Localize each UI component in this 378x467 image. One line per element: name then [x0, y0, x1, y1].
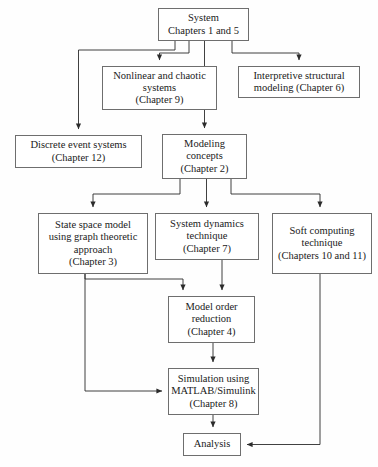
node-analysis[interactable]: Analysis: [183, 433, 241, 456]
edge-system-interpretive: [232, 41, 299, 60]
node-interpretive-label: Interpretive structural modeling (Chapte…: [239, 70, 359, 94]
edge-soft-analysis: [247, 274, 320, 445]
node-interpretive-structural-modeling[interactable]: Interpretive structural modeling (Chapte…: [238, 66, 360, 98]
node-statespace-label: State space model using graph theoretic …: [39, 219, 147, 268]
node-modeling-label: Modeling concepts (Chapter 2): [163, 138, 246, 175]
node-soft-label: Soft computing technique (Chapters 10 an…: [273, 225, 371, 262]
flowchart-canvas: System Chapters 1 and 5 Nonlinear and ch…: [0, 0, 378, 467]
edge-modeling-soft: [231, 179, 320, 207]
node-model-order-reduction[interactable]: Model order reduction (Chapter 4): [168, 296, 255, 343]
node-state-space-model[interactable]: State space model using graph theoretic …: [38, 213, 148, 274]
node-discrete-event-systems[interactable]: Discrete event systems (Chapter 12): [15, 135, 142, 168]
edge-statespace-modelorder: [85, 274, 183, 290]
node-discrete-label: Discrete event systems (Chapter 12): [16, 139, 141, 163]
edge-system-nonlinear: [160, 41, 190, 60]
node-nonlinear-and-chaotic-systems[interactable]: Nonlinear and chaotic systems (Chapter 9…: [102, 66, 217, 110]
node-sysdyn-label: System dynamics technique (Chapter 7): [156, 218, 258, 255]
node-system-dynamics-technique[interactable]: System dynamics technique (Chapter 7): [155, 213, 259, 260]
node-system-label: System Chapters 1 and 5: [159, 12, 248, 36]
edge-statespace-simulation: [85, 274, 162, 391]
node-soft-computing-technique[interactable]: Soft computing technique (Chapters 10 an…: [272, 213, 372, 274]
node-nonlinear-label: Nonlinear and chaotic systems (Chapter 9…: [103, 70, 216, 107]
node-simulation-using-matlab-simulink[interactable]: Simulation using MATLAB/Simulink (Chapte…: [168, 368, 259, 415]
node-modeling-concepts[interactable]: Modeling concepts (Chapter 2): [162, 134, 247, 179]
edge-modeling-statespace: [93, 179, 180, 207]
node-system[interactable]: System Chapters 1 and 5: [158, 8, 249, 41]
node-modelorder-label: Model order reduction (Chapter 4): [169, 301, 254, 338]
node-simulation-label: Simulation using MATLAB/Simulink (Chapte…: [169, 373, 258, 410]
node-analysis-label: Analysis: [184, 438, 240, 450]
